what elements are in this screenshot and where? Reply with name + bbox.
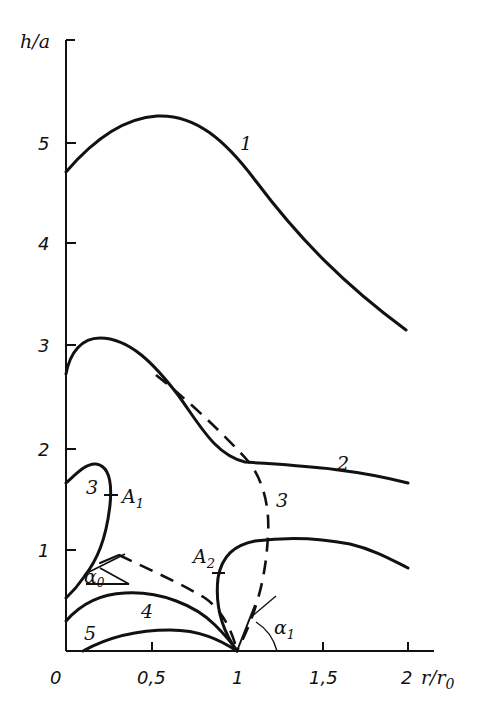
x-tick-1-5: 1,5 (309, 667, 338, 688)
curve-5 (83, 630, 237, 651)
y-tick-1: 1 (38, 540, 49, 561)
y-tick-3: 3 (38, 335, 49, 356)
label-a2: A2 (191, 545, 215, 571)
y-ticks: 1 2 3 4 5 (38, 133, 76, 561)
label-curve-3-left: 3 (86, 476, 98, 498)
label-curve-2: 2 (336, 452, 349, 474)
curve-3-dashed (156, 375, 268, 651)
label-curve-5: 5 (84, 622, 96, 644)
chart-figure: 1 2 3 4 5 0 0,5 1 1,5 2 h/a r/r0 (0, 0, 491, 721)
x-tick-2: 2 (401, 667, 412, 688)
y-tick-4: 4 (38, 233, 49, 254)
y-tick-5: 5 (38, 133, 49, 154)
y-tick-2: 2 (38, 439, 49, 460)
x-axis-label: r/r0 (421, 666, 455, 692)
label-curve-1: 1 (240, 132, 252, 154)
alpha1-marker (237, 596, 277, 651)
y-axis-label: h/a (20, 30, 50, 52)
label-a1: A1 (120, 485, 144, 511)
label-curve-4: 4 (140, 600, 153, 622)
x-tick-0: 0 (50, 667, 61, 688)
curve-2 (66, 338, 408, 483)
x-tick-1: 1 (232, 667, 243, 688)
label-alpha1: α1 (274, 616, 295, 642)
x-tick-0-5: 0,5 (137, 667, 166, 688)
curve-1 (66, 116, 406, 330)
label-curve-3-right: 3 (276, 489, 288, 511)
